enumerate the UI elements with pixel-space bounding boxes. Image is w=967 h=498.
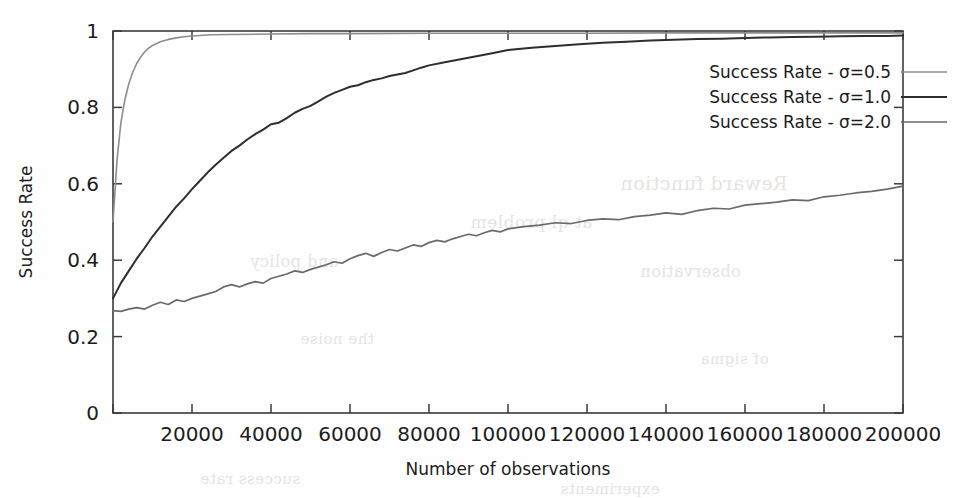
x-tick-label: 120000 [549, 422, 625, 446]
y-axis-title: Success Rate [16, 166, 36, 279]
chart-page: Reward functionat ql problemand policyob… [0, 0, 967, 498]
y-tick-label: 1 [86, 19, 99, 43]
success-rate-line-chart: 00.20.40.60.8120000400006000080000100000… [0, 0, 967, 498]
x-tick-label: 100000 [470, 422, 546, 446]
legend-label-0: Success Rate - σ=0.5 [709, 62, 891, 82]
x-tick-label: 180000 [786, 422, 862, 446]
y-tick-label: 0 [86, 401, 99, 425]
legend-label-2: Success Rate - σ=2.0 [709, 112, 891, 132]
x-tick-label: 20000 [160, 422, 224, 446]
legend-label-1: Success Rate - σ=1.0 [709, 87, 891, 107]
x-tick-label: 80000 [397, 422, 461, 446]
x-tick-label: 40000 [239, 422, 303, 446]
x-axis-title: Number of observations [406, 459, 611, 479]
x-tick-label: 60000 [318, 422, 382, 446]
x-tick-label: 160000 [707, 422, 783, 446]
y-tick-label: 0.8 [67, 95, 99, 119]
y-tick-label: 0.2 [67, 325, 99, 349]
series-line-2 [113, 186, 903, 311]
x-tick-label: 200000 [865, 422, 941, 446]
y-tick-label: 0.6 [67, 172, 99, 196]
x-tick-label: 140000 [628, 422, 704, 446]
y-tick-label: 0.4 [67, 248, 99, 272]
